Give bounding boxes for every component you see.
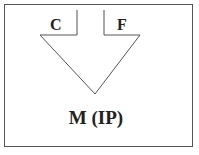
label-output: M (IP) bbox=[0, 108, 192, 127]
label-f: F bbox=[117, 17, 127, 33]
merge-arrow bbox=[0, 0, 199, 155]
label-c: C bbox=[50, 17, 62, 33]
